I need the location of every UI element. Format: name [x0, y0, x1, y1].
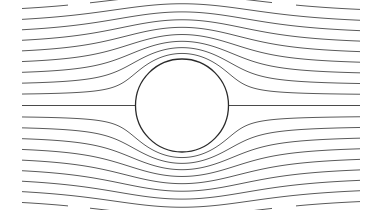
streamline: [22, 202, 68, 205]
cylinder-circle: [136, 59, 229, 152]
streamline: [230, 208, 272, 210]
streamline: [296, 5, 360, 9]
streamline: [22, 5, 68, 8]
streamline: [90, 208, 132, 210]
streamline: [90, 0, 132, 3]
streamline: [230, 0, 272, 3]
streamline: [22, 20, 360, 41]
flow-diagram: [0, 0, 378, 210]
streamline: [296, 202, 360, 206]
streamline: [22, 170, 360, 191]
